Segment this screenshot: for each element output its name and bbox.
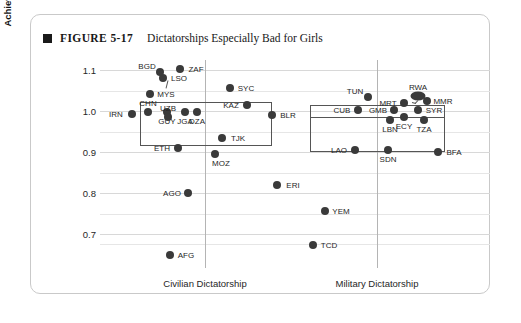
chart-plot: Ratio of Girls-to-Boys Educational Achie… (0, 0, 521, 323)
data-point-label: SYR (426, 106, 442, 115)
data-point (384, 146, 392, 154)
data-point-label: TJK (231, 134, 245, 143)
data-point-label: CUB (334, 106, 351, 115)
gridline-minor (100, 244, 490, 245)
data-point-label: ERI (286, 181, 299, 190)
data-point-label: LSO (171, 74, 187, 83)
data-point (144, 108, 152, 116)
data-point-label: YEM (332, 207, 349, 216)
data-point-label: BGD (138, 62, 155, 71)
data-point (321, 207, 329, 215)
data-point (386, 116, 394, 124)
data-point (434, 148, 442, 156)
data-point-label: IRN (109, 110, 123, 119)
data-point-label: ECY (396, 122, 412, 131)
data-point (193, 108, 201, 116)
data-point-label: TUN (347, 87, 363, 96)
data-point-label: AGO (163, 189, 181, 198)
x-axis-group-label: Military Dictatorship (336, 278, 419, 289)
gridline-major (100, 234, 490, 235)
data-point (218, 134, 226, 142)
data-point (309, 241, 317, 249)
data-point-label: MYS (157, 90, 174, 99)
data-point (273, 181, 281, 189)
data-point (166, 251, 174, 259)
data-point-label: BFA (446, 148, 461, 157)
y-axis-ticks: 1.11.00.90.80.7 (56, 60, 96, 245)
data-point (156, 68, 164, 76)
leader-line-mrt (412, 102, 416, 104)
y-tick-label: 0.8 (62, 188, 96, 199)
y-tick-label: 0.7 (62, 229, 96, 240)
y-axis-title: Ratio of Girls-to-Boys Educational Achie… (0, 0, 14, 92)
data-point (176, 65, 184, 73)
gridline-minor (100, 214, 490, 215)
data-point (364, 93, 372, 101)
data-point-label: KAZ (223, 101, 239, 110)
data-point (181, 108, 189, 116)
data-point-label: TCD (321, 241, 337, 250)
data-point (420, 116, 428, 124)
data-point (211, 150, 219, 158)
data-point-label: DZA (189, 117, 205, 126)
gridline-minor (100, 173, 490, 174)
data-point (128, 110, 136, 118)
data-point-label: BLR (280, 111, 296, 120)
data-point-label: UZB (160, 104, 176, 113)
data-point-label: LAO (331, 146, 347, 155)
data-point-label: MMR (433, 97, 452, 106)
data-point (164, 113, 172, 121)
group-center-line (205, 60, 206, 268)
data-point (354, 106, 362, 114)
data-point-label: MOZ (212, 159, 230, 168)
y-tick-label: 1.0 (62, 106, 96, 117)
data-point-label: AFG (178, 251, 194, 260)
data-point-label: SDN (380, 155, 397, 164)
data-point (146, 90, 154, 98)
data-point (184, 189, 192, 197)
data-point (243, 101, 251, 109)
data-point-label: MRT (379, 99, 396, 108)
data-point-label: ZAF (188, 65, 203, 74)
data-point-label: SYC (238, 84, 254, 93)
data-point-label: ETH (154, 144, 170, 153)
x-axis-group-label: Civilian Dictatorship (163, 278, 246, 289)
data-point (268, 111, 276, 119)
gridline-major (100, 193, 490, 194)
data-point (423, 97, 431, 105)
data-point-label: RWA (409, 83, 427, 92)
y-tick-label: 1.1 (62, 65, 96, 76)
data-point (400, 113, 408, 121)
data-point (400, 99, 408, 107)
leader-line-lso (166, 80, 169, 88)
data-point (351, 146, 359, 154)
data-point-label: CHN (139, 99, 156, 108)
plot-area: Civilian DictatorshipIRNCHNGUYUZBJGADZAK… (100, 60, 490, 245)
group-center-line (377, 60, 378, 268)
y-tick-label: 0.9 (62, 147, 96, 158)
data-point-label: TZA (416, 125, 431, 134)
data-point (174, 144, 182, 152)
data-point (226, 84, 234, 92)
data-point (414, 106, 422, 114)
